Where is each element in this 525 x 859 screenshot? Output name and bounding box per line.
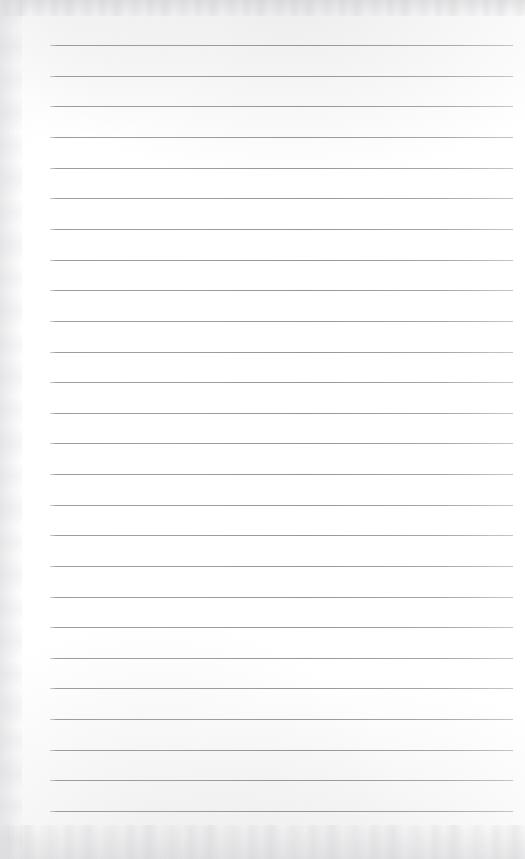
rule-line	[50, 290, 513, 291]
ruled-lines-group	[0, 0, 525, 859]
rule-line	[50, 137, 513, 138]
rule-line	[50, 352, 513, 353]
rule-line	[50, 45, 513, 46]
rule-line	[50, 597, 513, 598]
rule-line	[50, 443, 513, 444]
rule-line	[50, 688, 513, 689]
rule-line	[50, 780, 513, 781]
lined-paper-page	[0, 0, 525, 859]
rule-line	[50, 505, 513, 506]
rule-line	[50, 811, 513, 812]
rule-line	[50, 413, 513, 414]
rule-line	[50, 382, 513, 383]
rule-line	[50, 168, 513, 169]
rule-line	[50, 566, 513, 567]
rule-line	[50, 719, 513, 720]
rule-line	[50, 627, 513, 628]
rule-line	[50, 229, 513, 230]
rule-line	[50, 474, 513, 475]
rule-line	[50, 750, 513, 751]
rule-line	[50, 321, 513, 322]
rule-line	[50, 198, 513, 199]
rule-line	[50, 106, 513, 107]
rule-line	[50, 658, 513, 659]
rule-line	[50, 76, 513, 77]
rule-line	[50, 260, 513, 261]
rule-line	[50, 535, 513, 536]
